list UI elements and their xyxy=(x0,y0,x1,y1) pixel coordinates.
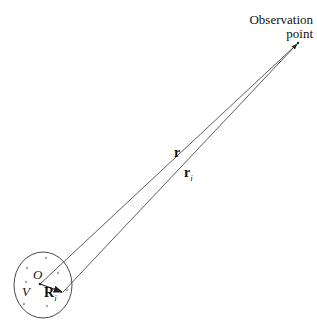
observation-label-line1: Observation xyxy=(249,13,313,27)
volume-label: V xyxy=(22,285,30,298)
vector-ri-line xyxy=(63,44,297,292)
position-vector-label: Ri xyxy=(44,286,57,303)
origin-point xyxy=(39,283,42,286)
observation-label-line2: point xyxy=(249,27,313,41)
origin-label: O xyxy=(33,268,42,281)
vector-ri-label: ri xyxy=(184,166,193,183)
vector-r-label: r xyxy=(174,146,180,160)
position-vector-letter: R xyxy=(44,285,54,300)
vector-r-line xyxy=(40,44,297,284)
position-vector-subscript: i xyxy=(54,293,57,303)
observation-point xyxy=(297,42,299,44)
vector-ri-subscript: i xyxy=(190,173,193,183)
diagram-canvas xyxy=(0,0,317,330)
observation-point-label: Observation point xyxy=(249,13,313,41)
